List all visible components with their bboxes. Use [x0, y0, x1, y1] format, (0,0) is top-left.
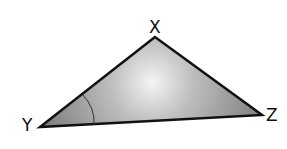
vertex-label-y: Y	[22, 117, 32, 134]
vertex-label-x: X	[149, 19, 161, 36]
triangle-xyz	[40, 37, 262, 127]
triangle-figure: X Y Z	[0, 0, 287, 149]
vertex-label-z: Z	[266, 107, 278, 124]
triangle-svg	[0, 0, 287, 149]
